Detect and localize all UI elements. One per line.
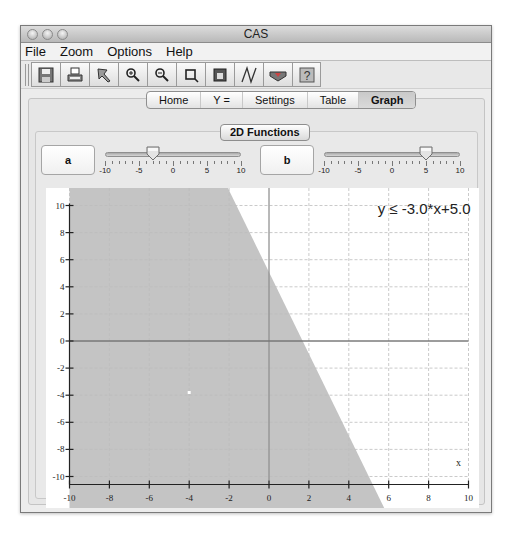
- y-tick-label: -2: [57, 363, 65, 373]
- toolbar-grip[interactable]: [25, 64, 29, 86]
- zoom-out-button[interactable]: [147, 62, 176, 87]
- menu-help[interactable]: Help: [166, 44, 193, 59]
- slider-tick-labels: -10-50510: [318, 166, 466, 176]
- print-button[interactable]: [60, 62, 89, 87]
- parameter-b-button[interactable]: b: [260, 145, 314, 175]
- y-tick-label: 8: [60, 228, 65, 238]
- save-icon: [37, 66, 55, 84]
- slider-tick-label: 0: [390, 166, 394, 175]
- zoom-out-icon: [153, 66, 171, 84]
- y-tick-label: 10: [56, 201, 66, 211]
- slider-tick-labels: -10-50510: [99, 166, 247, 176]
- menu-file[interactable]: File: [25, 44, 46, 59]
- slider-tick-label: -10: [318, 166, 330, 175]
- y-tick-label: -10: [53, 472, 65, 482]
- window-title: CAS: [21, 27, 491, 41]
- equation-label: y ≤ -3.0*x+5.0: [378, 200, 471, 217]
- save-button[interactable]: [31, 62, 60, 87]
- x-tick-label: -6: [146, 493, 154, 503]
- select-icon: [95, 66, 113, 84]
- zoom-in-icon: [124, 66, 142, 84]
- 2d-functions-panel: 2D Functions a -10-50510 b -10-50510 -10…: [35, 131, 478, 499]
- cas-window: CAS File Zoom Options Help: [20, 25, 492, 513]
- tab-graph[interactable]: Graph: [359, 92, 415, 108]
- toolbar: ?: [21, 61, 491, 89]
- arrow-banner-icon: [269, 66, 287, 84]
- slider-track[interactable]: [324, 152, 460, 157]
- arrow-banner-button[interactable]: [263, 62, 292, 87]
- slider-tick-label: 10: [456, 166, 465, 175]
- print-icon: [66, 66, 84, 84]
- tab-table[interactable]: Table: [308, 92, 359, 108]
- x-tick-label: -10: [64, 493, 76, 503]
- x-tick-label: 2: [307, 493, 312, 503]
- y-tick-label: 2: [60, 309, 65, 319]
- panel-title: 2D Functions: [220, 124, 310, 141]
- slider-tick-label: 10: [237, 166, 246, 175]
- shaded-region: [70, 188, 385, 508]
- slider-tick-label: 0: [171, 166, 175, 175]
- x-tick-label: -2: [225, 493, 233, 503]
- y-tick-label: -6: [57, 417, 65, 427]
- tab-settings[interactable]: Settings: [243, 92, 308, 108]
- title-bar: CAS: [21, 26, 491, 43]
- graph-canvas[interactable]: -10-8-6-4-202468101086420-2-4-6-8-10xy ≤…: [46, 188, 479, 508]
- tab-y-equals[interactable]: Y =: [201, 92, 243, 108]
- crop-icon: [182, 66, 200, 84]
- menu-zoom[interactable]: Zoom: [60, 44, 93, 59]
- calendar-icon: [211, 66, 229, 84]
- slider-thumb[interactable]: [146, 146, 160, 161]
- parameter-a-button[interactable]: a: [41, 145, 95, 175]
- x-tick-label: 10: [464, 493, 474, 503]
- select-button[interactable]: [89, 62, 118, 87]
- y-tick-label: -4: [57, 390, 65, 400]
- slider-tick-label: -10: [99, 166, 111, 175]
- slider-tick-label: 5: [205, 166, 209, 175]
- menu-options[interactable]: Options: [107, 44, 152, 59]
- x-tick-label: 6: [386, 493, 391, 503]
- slider-thumb[interactable]: [419, 146, 433, 161]
- x-tick-label: 8: [426, 493, 431, 503]
- graph-curve-icon: [240, 66, 258, 84]
- menu-bar: File Zoom Options Help: [21, 43, 491, 61]
- help-button[interactable]: ?: [292, 62, 321, 87]
- parameter-a-slider[interactable]: -10-50510: [99, 145, 247, 177]
- graph-curve-button[interactable]: [234, 62, 263, 87]
- y-tick-label: 0: [60, 336, 65, 346]
- slider-tick-label: -5: [354, 166, 361, 175]
- cursor-point: [188, 391, 191, 394]
- inequality-plot[interactable]: -10-8-6-4-202468101086420-2-4-6-8-10xy ≤…: [46, 188, 479, 508]
- zoom-in-button[interactable]: [118, 62, 147, 87]
- x-tick-label: 0: [267, 493, 272, 503]
- x-tick-label: 4: [347, 493, 352, 503]
- y-tick-label: 6: [60, 255, 65, 265]
- y-tick-label: -8: [57, 444, 65, 454]
- slider-tick-label: 5: [424, 166, 428, 175]
- svg-text:?: ?: [303, 69, 310, 83]
- x-tick-label: -8: [106, 493, 114, 503]
- help-icon: ?: [298, 66, 316, 84]
- slider-tick-label: -5: [135, 166, 142, 175]
- graph-tab-panel: Home Y = Settings Table Graph 2D Functio…: [28, 98, 485, 505]
- main-tabs: Home Y = Settings Table Graph: [146, 91, 416, 109]
- y-tick-label: 4: [60, 282, 65, 292]
- x-axis-label: x: [456, 457, 461, 468]
- crop-button[interactable]: [176, 62, 205, 87]
- tab-home[interactable]: Home: [147, 92, 201, 108]
- slider-track[interactable]: [105, 152, 241, 157]
- calendar-button[interactable]: [205, 62, 234, 87]
- parameter-b-slider[interactable]: -10-50510: [318, 145, 466, 177]
- x-tick-label: -4: [185, 493, 193, 503]
